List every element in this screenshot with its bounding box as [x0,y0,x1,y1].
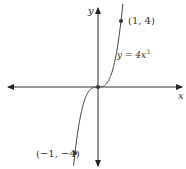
function-label: y = 4x3 [117,48,150,60]
point-label-1-4: (1, 4) [128,15,155,26]
plot-area [0,0,186,169]
function-exponent: 3 [146,48,150,55]
x-axis-label: x [178,90,184,101]
y-axis-label: y [88,5,94,16]
function-text: y = 4x [117,50,146,60]
point-label-neg1-neg4: (−1, −4) [36,148,80,159]
graph: y x (1, 4) y = 4x3 (−1, −4) [0,0,186,169]
origin-point [96,85,100,89]
point-1-4 [119,19,123,23]
